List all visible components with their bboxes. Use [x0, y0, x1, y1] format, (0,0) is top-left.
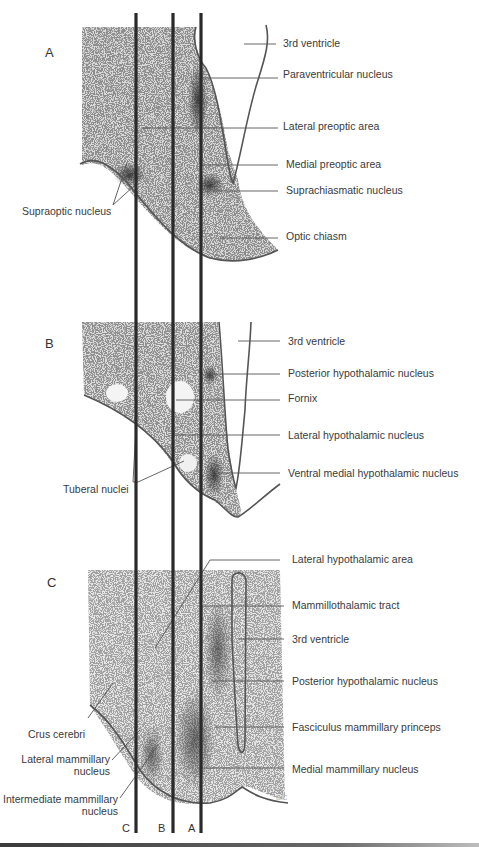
label-a-suprachiasmatic-nucleus: Suprachiasmatic nucleus: [286, 184, 403, 196]
label-c-mammillothalamic-tract: Mammillothalamic tract: [292, 599, 399, 611]
label-c-lateral-hypothalamic-area: Lateral hypothalamic area: [292, 553, 413, 565]
label-c-3rd-ventricle: 3rd ventricle: [292, 633, 349, 645]
label-a-paraventricular-nucleus: Paraventricular nucleus: [283, 68, 393, 80]
panel-c: B/C: [88, 560, 288, 810]
label-b-tuberal-nuclei: Tuberal nuclei: [63, 483, 129, 495]
label-c-fasciculus-mammillary-princeps: Fasciculus mammillary princeps: [292, 721, 441, 733]
label-a-3rd-ventricle: 3rd ventricle: [283, 37, 340, 49]
label-b-fornix: Fornix: [288, 392, 318, 404]
label-b-lateral-hypothalamic-nucleus: Lateral hypothalamic nucleus: [288, 429, 424, 441]
cut-label-b: B: [158, 822, 165, 834]
cut-label-a: A: [188, 822, 196, 834]
label-a-medial-preoptic-area: Medial preoptic area: [286, 158, 381, 170]
signature: B/C: [276, 794, 288, 801]
label-a-lateral-preoptic-area: Lateral preoptic area: [283, 120, 379, 132]
label-c-lateral-mammillary: Lateral mammillary: [21, 753, 110, 765]
label-a-supraoptic-nucleus: Supraoptic nucleus: [22, 205, 111, 217]
panel-letter-b: B: [45, 336, 54, 351]
bottom-edge-bar: [0, 843, 479, 847]
label-b-ventral-medial-hypothalamic-nucleus: Ventral medial hypothalamic nucleus: [288, 467, 458, 479]
label-b-posterior-hypothalamic-nucleus: Posterior hypothalamic nucleus: [288, 367, 434, 379]
cut-label-c: C: [122, 822, 130, 834]
label-c-crus-cerebri: Crus cerebri: [28, 728, 85, 740]
label-c-medial-mammillary-nucleus: Medial mammillary nucleus: [292, 763, 419, 775]
label-c-nucleus: nucleus: [74, 765, 110, 777]
label-c-intermediate-mammillary: Intermediate mammillary: [3, 793, 119, 805]
panel-a: [80, 25, 278, 262]
panel-letter-c: C: [47, 575, 56, 590]
hypothalamus-diagram: B/C C B A A B C 3rd ventricleParaventric…: [0, 0, 479, 847]
label-a-optic-chiasm: Optic chiasm: [286, 230, 347, 242]
label-c-nucleus: nucleus: [82, 805, 118, 817]
panel-letter-a: A: [45, 45, 54, 60]
label-c-posterior-hypothalamic-nucleus: Posterior hypothalamic nucleus: [292, 675, 438, 687]
label-b-3rd-ventricle: 3rd ventricle: [288, 335, 345, 347]
